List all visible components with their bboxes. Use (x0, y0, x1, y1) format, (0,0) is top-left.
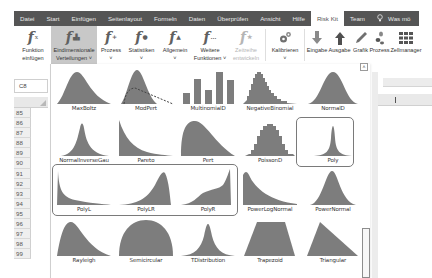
grafik-button[interactable]: Grafik (352, 26, 369, 64)
button-label: ˅ (283, 55, 286, 62)
item-label: Rayleigh (49, 257, 119, 263)
button-label: Funktion (22, 47, 43, 54)
gallery-item-trapezoid[interactable]: Trapezoid (241, 218, 299, 266)
tell-me-label: Was mö (388, 15, 410, 22)
excel-window: Datei Start Einfügen Seitenlayout Formel… (0, 0, 432, 278)
tab-daten[interactable]: Daten (183, 11, 212, 26)
row-header[interactable]: 89 (14, 148, 31, 158)
tab-einfuegen[interactable]: Einfügen (66, 11, 102, 26)
row-header[interactable]: 93 (14, 189, 31, 199)
allgemein-button[interactable]: f▲ Allgemein ˅ (159, 26, 191, 64)
row-header[interactable]: 90 (14, 158, 31, 168)
button-label: ˅ (140, 55, 143, 62)
gallery-item-negativebinomial[interactable]: NegativeBinomial (241, 66, 299, 114)
funktion-einfuegen-button[interactable]: fx Funktion einfügen (16, 26, 50, 64)
statistiken-button[interactable]: f● Statistiken ˅ (125, 26, 158, 64)
button-label: Grafik (353, 47, 368, 54)
row-header[interactable]: 97 (14, 229, 31, 239)
row-header[interactable]: 85 (14, 108, 31, 118)
multinomial-bars-icon (179, 66, 237, 106)
ribbon-risk-kit: fx Funktion einfügen f▟▖ Eindimensionale… (14, 26, 419, 64)
button-label: Prozess (101, 47, 121, 54)
gallery-item-modpert[interactable]: ModPert (117, 66, 175, 114)
prozess-ablauf-button[interactable]: Prozess (369, 26, 390, 64)
button-label: Zellmanager (390, 47, 421, 54)
pareto-curve-icon (117, 118, 175, 158)
row-header[interactable]: 98 (14, 239, 31, 249)
eindimensionale-verteilungen-button[interactable]: f▟▖ Eindimensionale Verteilungen ˅ (51, 26, 97, 64)
tab-ansicht[interactable]: Ansicht (254, 11, 286, 26)
tab-datei[interactable]: Datei (14, 11, 40, 26)
gallery-item-rayleigh[interactable]: Rayleigh (55, 218, 113, 266)
row-header[interactable]: 87 (14, 128, 31, 138)
gallery-item-polyr[interactable]: PolyR (179, 167, 237, 215)
select-all-corner[interactable] (14, 97, 48, 108)
tab-seitenlayout[interactable]: Seitenlayout (102, 11, 148, 26)
tell-me-search[interactable]: Was mö (371, 11, 416, 26)
gallery-item-semicircular[interactable]: Semicircular (117, 218, 175, 266)
tab-ueberpruefen[interactable]: Überprüfen (211, 11, 254, 26)
button-label: Eindimensionale (53, 47, 94, 54)
gallery-scrollbar-track[interactable] (372, 72, 378, 278)
formula-bar-strip (383, 78, 432, 87)
gallery-scrollbar-thumb[interactable] (362, 228, 370, 278)
row-header[interactable]: 94 (14, 199, 31, 209)
button-label: ˅ (173, 55, 176, 62)
ausgabe-button[interactable]: Ausgabe (328, 26, 351, 64)
eingabe-button[interactable]: Eingabe (306, 26, 328, 64)
gallery-item-normald[interactable]: NormalD (304, 66, 362, 114)
kalibrieren-button[interactable]: Kalibrieren ˅ (268, 26, 302, 64)
tab-team[interactable]: Team (344, 11, 371, 26)
row-header[interactable]: 92 (14, 179, 31, 189)
gallery-item-normalinversegau[interactable]: NormalInverseGau (55, 118, 113, 166)
gallery-item-pert[interactable]: Pert (179, 118, 237, 166)
arrow-up-icon (335, 29, 345, 46)
gallery-item-powernormal[interactable]: PowerNormal (304, 167, 362, 215)
name-box[interactable]: C8 (14, 79, 48, 93)
column-header[interactable] (372, 94, 432, 106)
pert-curve-icon (179, 118, 237, 158)
tab-formeln[interactable]: Formeln (148, 11, 183, 26)
weitere-funktionen-button[interactable]: f… Weitere Funktionen ˅ (192, 26, 228, 64)
tab-hilfe[interactable]: Hilfe (287, 11, 311, 26)
row-header[interactable]: 99 (14, 249, 31, 259)
gallery-item-tdistribution[interactable]: TDistribution (179, 218, 237, 266)
gallery-item-polyl[interactable]: PolyL (55, 167, 113, 215)
arrow-down-icon (312, 29, 322, 46)
gallery-item-poly[interactable]: Poly (304, 118, 362, 166)
row-header[interactable]: 96 (14, 219, 31, 229)
gallery-item-maxboltz[interactable]: MaxBoltz (55, 66, 113, 114)
item-label: Pert (173, 157, 243, 163)
item-label: NormalInverseGau (49, 157, 119, 163)
maxboltz-curve-icon (55, 66, 113, 106)
item-label: Poly (298, 157, 368, 163)
button-label: Weitere (200, 47, 219, 54)
gallery-item-multinomiald[interactable]: MultinomialD (179, 66, 237, 114)
item-label: Triangular (298, 257, 368, 263)
button-label: Allgemein (163, 47, 188, 54)
row-header[interactable]: 91 (14, 169, 31, 179)
gallery-item-pareto[interactable]: Pareto (117, 118, 175, 166)
button-label: Zeitreihe (235, 47, 257, 54)
rayleigh-curve-icon (55, 218, 113, 258)
prozess-button[interactable]: f+ Prozess ˅ (98, 26, 124, 64)
item-label: PoissonD (235, 157, 305, 163)
nig-curve-icon (55, 118, 113, 158)
zellmanager-button[interactable]: Zellmanager (391, 26, 421, 64)
zeitreihe-button[interactable]: f★ Zeitreihe entwickeln (229, 26, 263, 64)
row-header[interactable]: 95 (14, 209, 31, 219)
tab-start[interactable]: Start (40, 11, 65, 26)
tab-risk-kit[interactable]: Risk Kit (311, 11, 344, 26)
gallery-item-powerlognormal[interactable]: PowerLogNormal (241, 167, 299, 215)
item-label: NormalD (298, 105, 368, 111)
fx-process-icon: f+ (105, 29, 117, 46)
gallery-item-poissond[interactable]: PoissonD (241, 118, 299, 166)
gallery-item-triangular[interactable]: Triangular (304, 218, 362, 266)
row-header[interactable]: 88 (14, 138, 31, 148)
row-header[interactable]: 86 (14, 118, 31, 128)
lightbulb-icon (377, 14, 383, 24)
triangular-shape-icon (304, 218, 362, 258)
gallery-item-polylr[interactable]: PolyLR (117, 167, 175, 215)
button-label: Eingabe (307, 47, 328, 54)
powernormal-curve-icon (304, 167, 362, 207)
